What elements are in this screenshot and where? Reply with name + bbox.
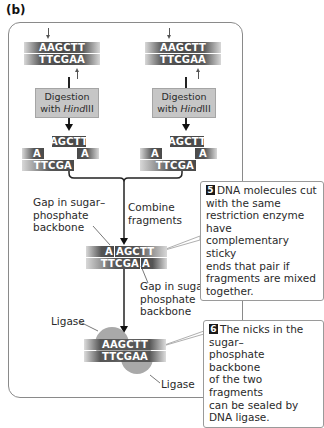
digestion-box-left: Digestion with HindIII: [35, 88, 99, 118]
cut-arrow-bottom-left: [77, 72, 78, 79]
combined-bottom-right: A: [141, 258, 167, 269]
step-number-badge: 5: [206, 185, 215, 195]
bottom-strand: TTCGAA: [24, 54, 100, 65]
fragment-top-overhang: AGCTT: [170, 136, 204, 147]
fragment-left-piece: A: [22, 148, 44, 159]
fragment-right-piece: A: [77, 148, 99, 159]
cut-arrow-top-right: [169, 28, 170, 35]
sealed-bottom-strand: TTCGAA: [84, 351, 166, 362]
gap-label-top: Gap in sugar– phosphate backbone: [33, 196, 105, 234]
top-strand: AAGCTT: [145, 42, 221, 53]
sealed-top-strand: AAGCTT: [84, 339, 166, 350]
cut-arrow-head-icon: [167, 35, 171, 39]
cut-arrow-bottom-right: [198, 72, 199, 79]
top-strand: AAGCTT: [24, 42, 100, 53]
bottom-strand: TTCGAA: [145, 54, 221, 65]
digestion-text: Digestion: [36, 91, 98, 103]
combined-top-left: A: [86, 246, 114, 257]
ligase-label-top: Ligase: [51, 315, 85, 328]
fragment-top-overhang: AGCTT: [52, 136, 86, 147]
step-number-badge: 6: [209, 324, 218, 334]
digestion-enzyme-text: with HindIII: [153, 103, 215, 115]
step-6-callout: 6The nicks in the sugar– phosphate backb…: [203, 320, 324, 428]
ligase-label-bottom: Ligase: [161, 378, 195, 391]
cut-arrow-head-icon: [46, 35, 50, 39]
arrow-down-icon: [182, 124, 190, 131]
digestion-box-right: Digestion with HindIII: [152, 88, 216, 118]
step-5-callout: 5DNA molecules cut with the same restric…: [200, 181, 324, 301]
arrow-down-icon: [65, 124, 73, 131]
cut-arrow-top-left: [48, 28, 49, 35]
fragment-bottom: TTCGA: [22, 160, 74, 171]
digestion-enzyme-text: with HindIII: [36, 103, 98, 115]
fragment-right-piece: A: [195, 148, 217, 159]
fragment-bottom: TTCGA: [140, 160, 196, 171]
digestion-text: Digestion: [153, 91, 215, 103]
combined-bottom-left: TTCGA: [86, 258, 140, 269]
combined-top-right: AGCTT: [115, 246, 167, 257]
combine-fragments-label: Combine fragments: [128, 201, 182, 226]
fragment-left-piece: A: [140, 148, 162, 159]
